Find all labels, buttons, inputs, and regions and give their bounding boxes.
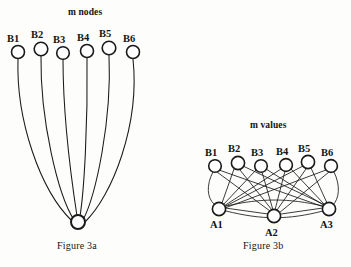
node-hub-a[interactable] xyxy=(71,215,85,229)
node-b5-a[interactable] xyxy=(102,41,116,55)
edge-b3-hub xyxy=(63,59,77,216)
node-label-a2: A2 xyxy=(265,228,278,239)
node-label-b1-b: B1 xyxy=(205,148,217,159)
node-b2-a[interactable] xyxy=(34,42,48,56)
figure-3a-caption: Figure 3a xyxy=(57,241,97,251)
edge-b1-a1 xyxy=(208,172,214,204)
edge-a2-a3 xyxy=(281,208,323,214)
node-a2[interactable] xyxy=(267,209,280,222)
figure-3a-edges xyxy=(18,55,134,222)
figure-3b-heading: m values xyxy=(250,121,286,131)
node-b5-b[interactable] xyxy=(301,155,314,168)
figure-3a-nodes xyxy=(12,41,140,229)
node-a3[interactable] xyxy=(322,202,335,215)
node-b6-b[interactable] xyxy=(325,160,338,173)
figure-3b-caption: Figure 3b xyxy=(243,241,283,251)
node-b2-b[interactable] xyxy=(231,156,244,169)
node-b3-b[interactable] xyxy=(255,160,268,173)
edge-b2-hub xyxy=(41,56,74,220)
node-label-a1: A1 xyxy=(210,220,223,231)
node-label-b6-b: B6 xyxy=(321,148,333,159)
node-b6-a[interactable] xyxy=(127,46,140,59)
figure-page: m nodes B1 B2 B3 B4 B5 B6 Figure 3a m va… xyxy=(0,0,351,267)
figure-3a-heading: m nodes xyxy=(68,8,102,18)
node-label-b3-b: B3 xyxy=(251,148,263,159)
node-b4-a[interactable] xyxy=(81,45,94,58)
edge-b5-a2 xyxy=(277,169,306,210)
edge-b4-hub xyxy=(80,58,87,216)
edge-b3-a3 xyxy=(266,169,325,206)
node-label-b3-a: B3 xyxy=(53,35,65,46)
node-b3-a[interactable] xyxy=(57,47,70,60)
edge-b5-a3 xyxy=(311,168,327,203)
edge-a1-a3-upper xyxy=(226,200,323,206)
node-label-b6-a: B6 xyxy=(123,34,135,45)
node-label-b1-a: B1 xyxy=(7,34,19,45)
node-label-a3: A3 xyxy=(320,220,333,231)
edge-b6-a3 xyxy=(333,172,338,205)
node-label-b2-a: B2 xyxy=(31,30,43,41)
node-label-b5-a: B5 xyxy=(99,29,111,40)
node-b4-b[interactable] xyxy=(280,159,293,172)
node-label-b5-b: B5 xyxy=(298,144,310,155)
edge-b2-a1 xyxy=(222,169,234,203)
node-a1[interactable] xyxy=(212,202,225,215)
node-b1-b[interactable] xyxy=(209,160,222,173)
node-label-b2-b: B2 xyxy=(228,144,240,155)
node-b1-a[interactable] xyxy=(12,46,25,59)
edge-a1-a2 xyxy=(225,208,268,214)
node-label-b4-a: B4 xyxy=(77,33,89,44)
node-label-b4-b: B4 xyxy=(276,147,288,158)
